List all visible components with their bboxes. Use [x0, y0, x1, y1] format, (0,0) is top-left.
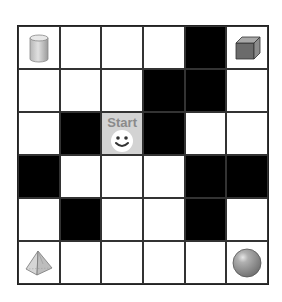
sphere-icon [231, 247, 263, 279]
cube-icon [231, 32, 263, 64]
cell-r2-c4[interactable] [185, 112, 227, 155]
cell-r1-c1[interactable] [60, 69, 102, 112]
wall-r2-c1 [60, 112, 102, 155]
wall-r2-c3 [143, 112, 185, 155]
cell-r4-c2[interactable] [101, 198, 143, 241]
cell-r3-c3[interactable] [143, 155, 185, 198]
cell-r4-c5[interactable] [226, 198, 268, 241]
cell-r2-c5[interactable] [226, 112, 268, 155]
cell-r3-c2[interactable] [101, 155, 143, 198]
cell-r0-c2[interactable] [101, 26, 143, 69]
cell-r1-c0[interactable] [18, 69, 60, 112]
start-cell[interactable]: Start [101, 112, 143, 155]
cell-r1-c2[interactable] [101, 69, 143, 112]
cylinder-icon [23, 32, 55, 64]
cell-r2-c0[interactable] [18, 112, 60, 155]
cell-r0-c0[interactable] [18, 26, 60, 69]
cell-r5-c3[interactable] [143, 241, 185, 284]
cell-r5-c1[interactable] [60, 241, 102, 284]
cell-r4-c3[interactable] [143, 198, 185, 241]
pyramid-icon [23, 247, 55, 279]
maze-grid: Start [17, 25, 269, 285]
cell-r0-c1[interactable] [60, 26, 102, 69]
cell-r5-c2[interactable] [101, 241, 143, 284]
cell-r5-c5[interactable] [226, 241, 268, 284]
cell-r5-c0[interactable] [18, 241, 60, 284]
wall-r4-c1 [60, 198, 102, 241]
wall-r1-c4 [185, 69, 227, 112]
cell-r1-c5[interactable] [226, 69, 268, 112]
cell-r0-c5[interactable] [226, 26, 268, 69]
cell-r5-c4[interactable] [185, 241, 227, 284]
wall-r3-c4 [185, 155, 227, 198]
cell-r3-c1[interactable] [60, 155, 102, 198]
cell-r4-c0[interactable] [18, 198, 60, 241]
wall-r4-c4 [185, 198, 227, 241]
wall-r3-c5 [226, 155, 268, 198]
start-label: Start [107, 116, 137, 129]
wall-r0-c4 [185, 26, 227, 69]
cell-r0-c3[interactable] [143, 26, 185, 69]
wall-r3-c0 [18, 155, 60, 198]
smiley-face-icon [109, 129, 135, 153]
wall-r1-c3 [143, 69, 185, 112]
